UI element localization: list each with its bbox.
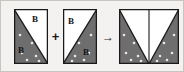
region-label-b: B [18, 46, 24, 55]
dot-marker [140, 60, 143, 63]
figure-container: + → BBBB [0, 0, 184, 72]
panel-left-graphic [14, 9, 48, 64]
dot-marker [171, 52, 174, 55]
dot-marker [133, 42, 136, 45]
dot-marker [159, 55, 162, 58]
dot-marker [130, 59, 133, 62]
dot-marker [19, 34, 22, 37]
dot-marker [125, 52, 128, 55]
dot-marker [83, 59, 86, 62]
dot-marker [156, 60, 159, 63]
panel-result [119, 9, 179, 64]
panel-left [14, 9, 48, 64]
region-label-b: B [68, 17, 74, 26]
dot-marker [166, 59, 169, 62]
dot-marker [74, 55, 77, 58]
region-label-b: B [83, 48, 89, 57]
dot-marker [26, 59, 29, 62]
region-label-b: B [32, 15, 38, 24]
dot-marker [35, 55, 38, 58]
dot-marker [163, 42, 166, 45]
dot-marker [71, 60, 74, 63]
dot-marker [38, 60, 41, 63]
dot-marker [123, 34, 126, 37]
dot-marker [137, 55, 140, 58]
plus-separator-icon: + [49, 30, 62, 43]
arrow-right-icon: → [99, 31, 117, 43]
dot-marker [31, 42, 34, 45]
panel-result-graphic [119, 9, 179, 64]
dot-marker [173, 34, 176, 37]
dot-marker [90, 34, 93, 37]
dot-marker [78, 42, 81, 45]
